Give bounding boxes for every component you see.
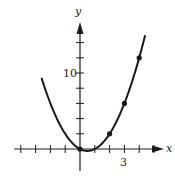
- data-point: [77, 146, 82, 151]
- parabola-chart: x y 3 10: [0, 0, 175, 179]
- data-points: [77, 55, 141, 151]
- y-axis-label: y: [74, 5, 82, 18]
- x-tick-label-3: 3: [120, 156, 127, 169]
- plot-area: x y 3 10: [0, 0, 175, 179]
- x-axis-label: x: [166, 142, 173, 155]
- data-point: [107, 131, 112, 136]
- axes: [14, 22, 164, 171]
- y-tick-label-10: 10: [63, 67, 77, 80]
- data-point: [122, 101, 127, 106]
- parabola-curve: [42, 35, 146, 151]
- data-point: [137, 55, 142, 60]
